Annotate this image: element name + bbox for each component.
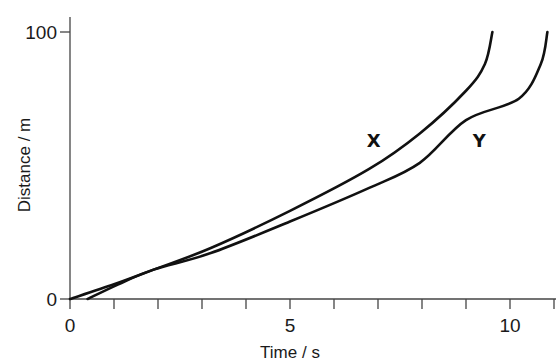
x-tick-label: 10 [499,315,520,336]
labels: XY [367,130,487,151]
chart: 05100100 XY Time / s Distance / m [0,0,560,363]
series-line-y [88,32,548,299]
y-tick-label: 100 [25,22,57,43]
axes [70,17,556,299]
series-line-x [70,32,492,299]
x-tick-label: 5 [285,315,296,336]
series-lines [70,32,547,299]
y-tick-label: 0 [46,289,57,310]
series-label-y: Y [472,130,487,151]
x-tick-label: 0 [65,315,76,336]
series-label-x: X [367,130,381,151]
x-axis-title: Time / s [260,343,320,362]
y-axis-title: Distance / m [15,118,34,212]
